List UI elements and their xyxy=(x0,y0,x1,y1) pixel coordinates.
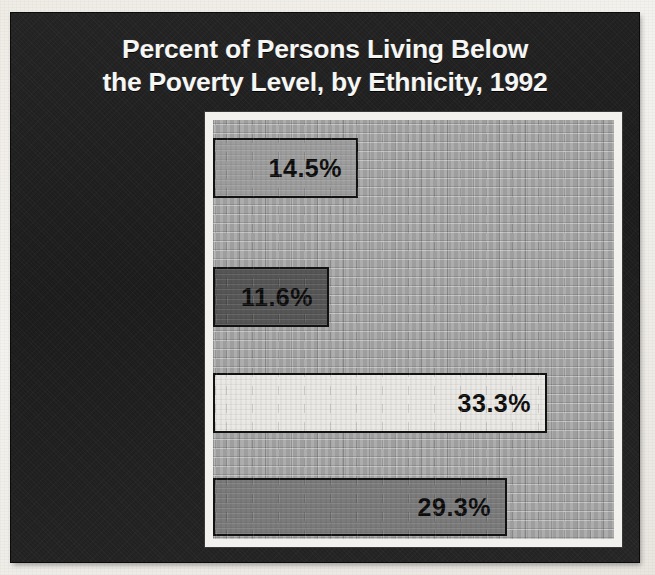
bar-african-americans: 33.3% xyxy=(213,373,547,433)
bar-latinos: 29.3% xyxy=(213,478,507,536)
chart-slide-panel: Percent of Persons Living Below the Pove… xyxy=(11,13,639,562)
chart-title-line-1: Percent of Persons Living Below xyxy=(11,33,639,66)
plot-area: 14.5% 11.6% 33.3% 29.3% xyxy=(213,120,614,539)
bar-value-label: 11.6% xyxy=(241,283,327,312)
chart-title: Percent of Persons Living Below the Pove… xyxy=(11,33,639,99)
bar-value-label: 14.5% xyxy=(269,154,356,183)
chart-title-line-2: the Poverty Level, by Ethnicity, 1992 xyxy=(11,66,639,99)
bar-value-label: 33.3% xyxy=(458,389,545,418)
bar-all-groups: 14.5% xyxy=(213,138,358,198)
plot-frame: 14.5% 11.6% 33.3% 29.3% xyxy=(205,112,622,547)
bar-value-label: 29.3% xyxy=(418,493,505,522)
bar-whites: 11.6% xyxy=(213,267,329,327)
